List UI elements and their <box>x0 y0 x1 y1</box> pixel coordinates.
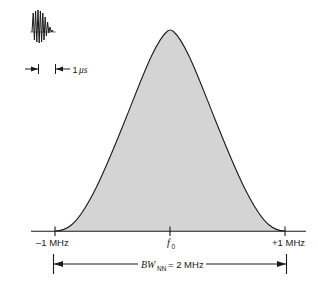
pulse-duration-value: 1 <box>73 65 78 75</box>
axis-label-center: f 0 <box>167 237 176 250</box>
bandwidth-value: = 2 MHz <box>168 259 204 270</box>
center-frequency-subscript: 0 <box>172 243 176 250</box>
bandwidth-arrowhead-left <box>54 261 63 267</box>
bandwidth-symbol: BW <box>141 259 157 270</box>
duration-arrowhead-b <box>56 67 63 72</box>
pulse-duration-scale-group: 1 μs <box>25 64 88 75</box>
duration-arrowhead-a <box>31 67 38 72</box>
axis-label-left: –1 MHz <box>36 237 69 248</box>
bandwidth-label: BW NN = 2 MHz <box>141 259 204 272</box>
bandwidth-subscript: NN <box>157 265 167 272</box>
pulse-inset-group <box>30 10 56 43</box>
pulse-inset-waveform <box>32 10 53 43</box>
pulse-duration-unit: μs <box>78 65 88 75</box>
bandwidth-arrowhead-right <box>277 261 286 267</box>
pulse-duration-label: 1 μs <box>73 65 88 75</box>
pulse-spectrum-figure: –1 MHz f 0 +1 MHz BW NN = 2 MHz <box>0 0 318 282</box>
spectrum-curve-group <box>55 30 285 231</box>
axis-label-right: +1 MHz <box>272 237 305 248</box>
bandwidth-dimension-group: BW NN = 2 MHz <box>54 254 287 274</box>
